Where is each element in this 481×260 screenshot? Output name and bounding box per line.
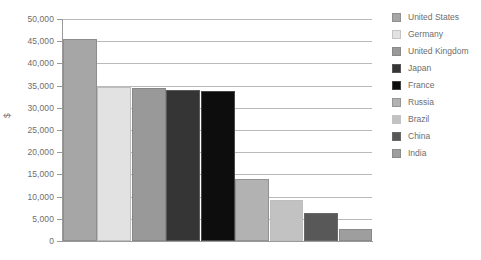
legend-label: Brazil — [408, 115, 429, 124]
y-axis-tick-label: 35,000 — [27, 82, 54, 91]
y-axis-tick-label: 50,000 — [27, 15, 54, 24]
bar — [166, 90, 200, 241]
legend-item[interactable]: Germany — [392, 26, 480, 43]
bar-chart: 50,00045,00040,00035,00030,00025,00020,0… — [0, 0, 481, 260]
legend-label: Russia — [408, 98, 434, 107]
legend-label: United Kingdom — [408, 47, 468, 56]
y-axis-tick-label: 45,000 — [27, 37, 54, 46]
legend-swatch-icon — [392, 30, 401, 39]
legend-swatch-icon — [392, 13, 401, 22]
bar — [201, 91, 235, 241]
legend-swatch-icon — [392, 81, 401, 90]
legend-label: United States — [408, 13, 459, 22]
bar — [63, 39, 97, 241]
y-axis-tick-label: 40,000 — [27, 59, 54, 68]
legend-label: China — [408, 132, 430, 141]
y-axis-tick-label: 5,000 — [32, 215, 54, 224]
bar — [304, 213, 338, 241]
y-axis-tick-label: 0 — [49, 237, 54, 246]
legend-swatch-icon — [392, 115, 401, 124]
legend-label: India — [408, 149, 426, 158]
bar — [235, 179, 269, 241]
bar — [339, 229, 373, 241]
legend-label: Germany — [408, 30, 443, 39]
legend: United StatesGermanyUnited KingdomJapanF… — [392, 9, 480, 162]
legend-item[interactable]: China — [392, 128, 480, 145]
bar-series — [63, 19, 373, 241]
legend-swatch-icon — [392, 149, 401, 158]
legend-label: France — [408, 81, 434, 90]
legend-item[interactable]: Japan — [392, 60, 480, 77]
y-axis-tick-labels: 50,00045,00040,00035,00030,00025,00020,0… — [0, 19, 54, 241]
legend-item[interactable]: Russia — [392, 94, 480, 111]
legend-item[interactable]: United States — [392, 9, 480, 26]
legend-swatch-icon — [392, 47, 401, 56]
bar — [270, 200, 304, 241]
legend-item[interactable]: United Kingdom — [392, 43, 480, 60]
legend-item[interactable]: Brazil — [392, 111, 480, 128]
legend-label: Japan — [408, 64, 431, 73]
legend-item[interactable]: France — [392, 77, 480, 94]
y-axis-tick-label: 25,000 — [27, 126, 54, 135]
bar — [132, 88, 166, 241]
y-axis-title: $ — [3, 113, 12, 118]
y-axis-tick-label: 20,000 — [27, 148, 54, 157]
legend-swatch-icon — [392, 98, 401, 107]
bar — [97, 87, 131, 241]
legend-swatch-icon — [392, 64, 401, 73]
legend-swatch-icon — [392, 132, 401, 141]
y-axis-tick-label: 30,000 — [27, 104, 54, 113]
y-axis-tick-label: 15,000 — [27, 170, 54, 179]
x-axis-line — [62, 241, 373, 242]
legend-item[interactable]: India — [392, 145, 480, 162]
y-axis-tick-label: 10,000 — [27, 193, 54, 202]
